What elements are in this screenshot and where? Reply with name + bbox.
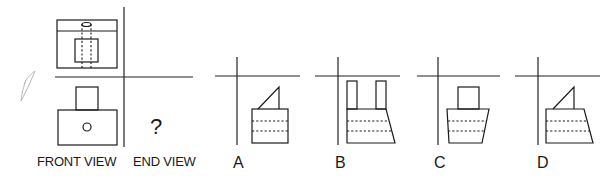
pencil-mark bbox=[21, 71, 35, 101]
option-a-drawing[interactable] bbox=[215, 57, 300, 145]
main-quadrant-axes bbox=[55, 7, 193, 147]
front-view-label: FRONT VIEW bbox=[37, 154, 116, 169]
end-view-question-mark: ? bbox=[150, 114, 162, 140]
option-a-label[interactable]: A bbox=[233, 154, 244, 172]
option-d-label[interactable]: D bbox=[537, 154, 549, 172]
option-b-drawing[interactable] bbox=[315, 57, 400, 145]
top-view bbox=[57, 20, 117, 68]
end-view-label: END VIEW bbox=[133, 154, 196, 169]
option-b-label[interactable]: B bbox=[335, 154, 346, 172]
option-c-label[interactable]: C bbox=[434, 154, 446, 172]
front-view bbox=[58, 87, 117, 145]
option-d-drawing[interactable] bbox=[515, 57, 600, 145]
option-c-drawing[interactable] bbox=[417, 57, 500, 145]
